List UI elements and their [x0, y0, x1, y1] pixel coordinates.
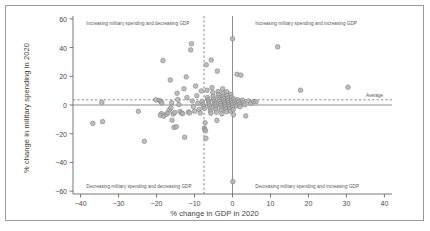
data-point [90, 121, 95, 126]
x-tick-label: −30 [113, 200, 125, 207]
data-point [160, 101, 165, 106]
data-point [210, 85, 215, 90]
x-tick-label: 0 [231, 200, 235, 207]
data-point [172, 110, 177, 115]
data-point [189, 41, 194, 46]
data-point [182, 135, 187, 140]
data-point [231, 179, 236, 184]
data-point [346, 85, 351, 90]
data-point [100, 119, 105, 124]
data-point [180, 111, 185, 116]
data-point [169, 100, 174, 105]
data-point [202, 106, 207, 111]
data-point [170, 118, 175, 123]
data-point [238, 104, 243, 109]
data-point [192, 109, 197, 114]
data-point [198, 111, 203, 116]
data-points-group [90, 36, 350, 184]
quadrant-note-bottom-left: Decreasing military spending and decreas… [86, 184, 191, 189]
figure-frame: % change in GDP in 2020 % change in mili… [5, 5, 424, 221]
data-point [215, 118, 220, 123]
data-point [275, 45, 280, 50]
data-point [187, 111, 192, 116]
x-tick-label: −20 [151, 200, 163, 207]
quadrant-note-bottom-right: Decreasing military spending and increas… [255, 184, 359, 189]
data-point [169, 106, 174, 111]
x-axis-title: % change in GDP in 2020 [6, 209, 423, 218]
data-point [204, 136, 209, 141]
data-point [199, 89, 204, 94]
data-point [220, 87, 225, 92]
x-tick-label: −10 [189, 200, 201, 207]
average-line-label: Average [366, 93, 383, 98]
quadrant-note-top-right: Increasing military spending and increas… [255, 21, 357, 26]
data-point [209, 58, 214, 63]
y-tick-label: 40 [45, 44, 67, 51]
x-tick-label: 40 [380, 200, 388, 207]
data-point [220, 112, 225, 117]
quadrant-note-top-left: Increasing military spending and decreas… [86, 21, 189, 26]
data-point [190, 99, 195, 104]
data-point [182, 86, 187, 91]
y-tick-label: 20 [45, 73, 67, 80]
data-point [175, 91, 180, 96]
y-tick-label: 0 [45, 102, 67, 109]
data-point [176, 97, 181, 102]
data-point [242, 102, 247, 107]
data-point [193, 84, 198, 89]
data-point [230, 36, 235, 41]
data-point [161, 58, 166, 63]
x-tick-label: 20 [305, 200, 313, 207]
data-point [136, 109, 141, 114]
y-tick-label: 60 [45, 15, 67, 22]
y-axis-title: % change in military spending in 2020 [22, 18, 31, 198]
x-tick-label: 10 [267, 200, 275, 207]
data-point [215, 69, 220, 74]
data-point [203, 129, 208, 134]
data-point [195, 94, 200, 99]
scatter-plot-canvas [6, 6, 425, 222]
data-point [191, 104, 196, 109]
data-point [205, 88, 210, 93]
data-point [100, 100, 105, 105]
data-point [231, 112, 236, 117]
data-point [177, 102, 182, 107]
data-point [174, 124, 179, 129]
data-point [209, 111, 214, 116]
data-point [188, 48, 193, 53]
data-point [184, 75, 189, 80]
data-point [239, 73, 244, 78]
x-tick-label: −40 [75, 200, 87, 207]
data-point [204, 63, 209, 68]
data-point [203, 121, 208, 126]
x-tick-label: 30 [343, 200, 351, 207]
data-point [142, 139, 147, 144]
data-point [168, 78, 173, 83]
y-tick-label: −20 [45, 130, 67, 137]
data-point [214, 110, 219, 115]
y-tick-label: −60 [45, 188, 67, 195]
y-tick-label: −40 [45, 159, 67, 166]
data-point [298, 88, 303, 93]
data-point [185, 95, 190, 100]
data-point [254, 100, 259, 105]
data-point [243, 114, 248, 119]
